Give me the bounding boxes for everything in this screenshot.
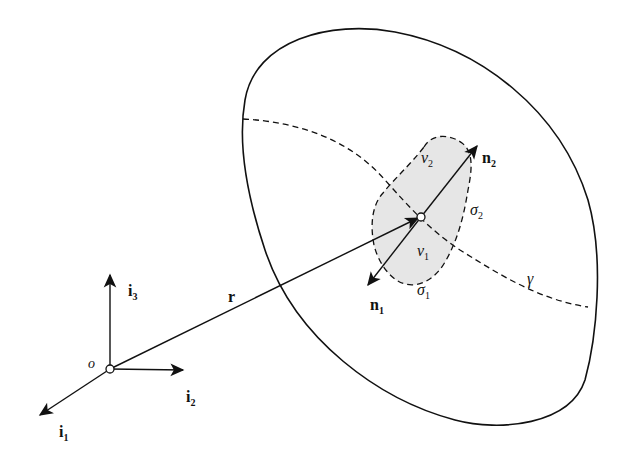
surface-sigma2-label: σ2	[470, 201, 483, 221]
axis-i1-arrow	[40, 369, 110, 415]
surface-point	[417, 213, 425, 221]
axis-i2-arrow	[110, 369, 183, 370]
normal-n2-label: n2	[482, 149, 496, 169]
normal-n1-label: n1	[370, 296, 384, 316]
position-vector-label: r	[228, 288, 235, 305]
gamma-label: γ	[527, 270, 534, 288]
axis-i1-label: i1	[59, 423, 68, 443]
axis-i3-label: i3	[128, 282, 137, 302]
origin-label: o	[88, 356, 95, 371]
axis-i2-label: i2	[186, 388, 195, 408]
diagram-canvas: o i3 i2 i1 r γ n2 n1 v2 v1 σ2 σ1	[0, 0, 619, 463]
position-vector-r	[110, 218, 418, 369]
origin-point	[106, 365, 114, 373]
surface-sigma1-label: σ1	[417, 281, 430, 301]
diagram-svg: o i3 i2 i1 r γ n2 n1 v2 v1 σ2 σ1	[0, 0, 619, 463]
